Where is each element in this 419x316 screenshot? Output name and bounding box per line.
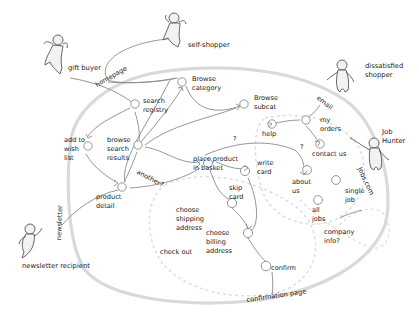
persona-label-job-hunter: Job Hunter (382, 128, 405, 146)
node-search-registry (131, 100, 139, 108)
persona-label-gift-buyer: gift buyer (68, 64, 101, 73)
label-browse-subcat: Browse subcat (254, 94, 278, 112)
label-about-us: about us (292, 178, 311, 196)
label-choose-billing-address: choose billing address (206, 229, 232, 257)
node-browse-category (178, 78, 186, 86)
label-search-registry: search registry (143, 97, 168, 115)
persona-newsletter-recipient-icon (19, 224, 42, 258)
label-contact-us: contact us (312, 150, 346, 159)
label-company-info: company info? (324, 228, 354, 246)
label-help: help (262, 130, 276, 139)
persona-label-self-shopper: self-shopper (188, 41, 230, 50)
label-my-orders: my orders (320, 116, 341, 134)
label-confirm: confirm (271, 264, 296, 273)
node-choose-billing (243, 228, 252, 237)
node-confirm (261, 261, 271, 271)
node-about-us (303, 166, 312, 175)
label-skip-card: skip card (229, 184, 243, 202)
label-browse-search-results: browse search results (107, 136, 131, 164)
node-product-detail (118, 183, 126, 191)
annotation-question-1: ? (233, 135, 237, 144)
node-single-job (332, 176, 341, 185)
label-check-out: check out (160, 248, 192, 257)
node-browse-search-results (134, 141, 142, 149)
label-place-product-in-basket: place product in basket (193, 155, 238, 173)
entry-label-newsletter: newsletter (55, 205, 65, 240)
label-write-card: write card (257, 159, 274, 177)
node-browse-subcat (240, 100, 248, 108)
label-all-jobs: all jobs (312, 206, 326, 224)
persona-label-newsletter-recipient: newsletter recipient (22, 262, 90, 271)
persona-self-shopper-icon (163, 13, 186, 47)
label-choose-shipping-address: choose shipping address (176, 206, 204, 234)
persona-dissatisfied-shopper-icon (327, 60, 354, 92)
node-my-orders (302, 116, 310, 124)
node-all-jobs (314, 196, 323, 205)
persona-gift-buyer-icon (44, 35, 67, 74)
label-single-job: single job (345, 187, 365, 205)
label-product-detail: product detail (96, 193, 121, 211)
persona-label-dissatisfied-shopper: dissatisfied shopper (365, 62, 403, 80)
annotation-question-2: ? (300, 143, 304, 152)
label-add-to-wish-list: add to wish list (64, 136, 85, 164)
label-browse-category: Browse category (192, 75, 221, 93)
